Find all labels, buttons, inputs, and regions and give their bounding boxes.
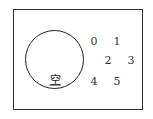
element-3: 3: [128, 55, 135, 66]
element-1: 1: [114, 36, 121, 47]
element-5: 5: [114, 76, 121, 87]
element-2: 2: [105, 55, 112, 66]
element-0: 0: [91, 36, 98, 47]
element-4: 4: [91, 76, 98, 87]
set-label: 空: [50, 75, 61, 86]
